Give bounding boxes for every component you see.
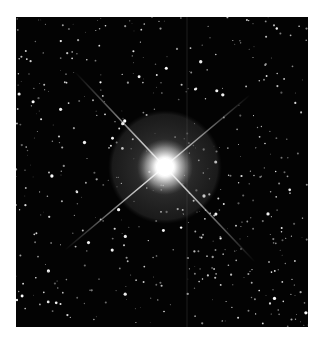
star-core: [156, 158, 174, 176]
star-photograph: Bright star with diffraction spikes in a…: [16, 17, 308, 327]
starfield-canvas: [16, 17, 308, 327]
